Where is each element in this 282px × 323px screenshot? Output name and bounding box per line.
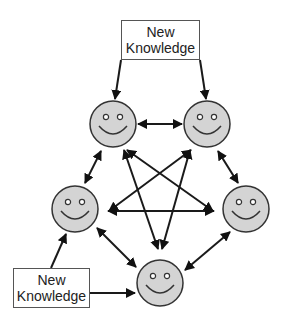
smiley-face-top-right [184, 101, 230, 147]
box-label-line2: Knowledge [126, 40, 195, 56]
box-label-line2: Knowledge [17, 288, 86, 304]
edge-topright-bottom [162, 150, 190, 249]
box-label-line1: New [37, 272, 65, 288]
edge-topright-right [218, 151, 238, 183]
edge-topbox-topright [200, 60, 206, 99]
edge-left-bottom [97, 228, 136, 267]
edge-topleft-bottom [124, 150, 158, 249]
smiley-face-bottom [137, 260, 183, 306]
new-knowledge-box-top: New Knowledge [121, 20, 200, 60]
edge-topbox-topleft [115, 60, 121, 99]
edge-right-bottom [185, 232, 230, 270]
smiley-face-right [223, 186, 269, 232]
new-knowledge-box-bottom: New Knowledge [13, 268, 90, 308]
smiley-face-top-left [90, 101, 136, 147]
edge-topleft-left [85, 151, 101, 183]
edge-topright-left [109, 150, 191, 211]
box-label-line1: New [146, 24, 174, 40]
smiley-face-left [52, 186, 98, 232]
edge-bottombox-left [51, 234, 66, 268]
edge-topleft-right [127, 150, 213, 211]
